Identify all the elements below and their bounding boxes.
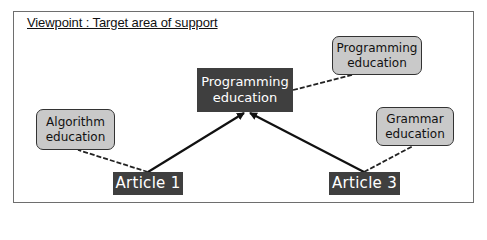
center-node-line1: Programming — [201, 74, 289, 90]
arrow-article1-to-center — [148, 113, 244, 172]
article-1-label: Article 1 — [115, 174, 180, 193]
dash-article1-to-algorithm — [78, 150, 148, 172]
tag-programming-line1: Programming — [337, 41, 418, 56]
dash-center-to-programming — [293, 75, 352, 90]
tag-algorithm-line2: education — [46, 130, 106, 145]
tag-grammar-education: Grammar education — [376, 107, 454, 146]
article-3-node: Article 3 — [329, 172, 400, 195]
tag-grammar-line1: Grammar — [385, 112, 445, 127]
tag-algorithm-line1: Algorithm — [46, 115, 106, 130]
arrow-article3-to-center — [250, 113, 364, 172]
tag-programming-education: Programming education — [332, 36, 422, 75]
article-1-node: Article 1 — [113, 172, 183, 195]
tag-algorithm-education: Algorithm education — [36, 109, 115, 150]
center-node-programming-education: Programming education — [197, 68, 293, 112]
tag-programming-line2: education — [337, 56, 418, 71]
article-3-label: Article 3 — [332, 174, 397, 193]
tag-grammar-line2: education — [385, 127, 445, 142]
dash-article3-to-grammar — [364, 146, 413, 172]
center-node-line2: education — [201, 90, 289, 106]
